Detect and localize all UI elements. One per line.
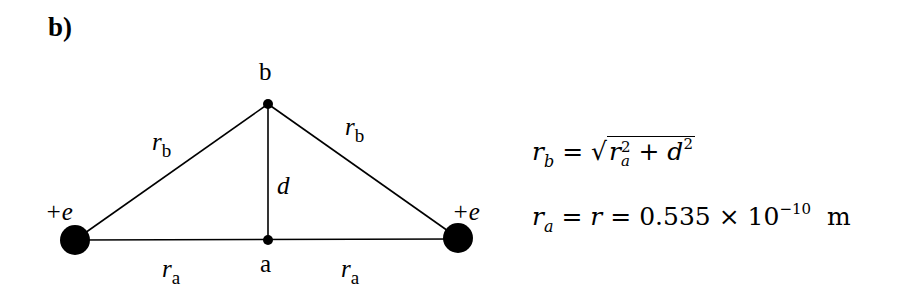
point-a-label: a: [260, 250, 271, 278]
ra-left-label: ra: [162, 255, 180, 283]
equation-rb: rb = √r2a + d2: [532, 137, 695, 168]
charge-left: [60, 225, 90, 255]
point-a: [263, 235, 273, 245]
equation-ra: ra = r = 0.535 × 10−10 m: [532, 202, 851, 231]
d-label: d: [277, 172, 290, 200]
point-b-label: b: [259, 58, 272, 86]
charge-right: [443, 223, 473, 253]
edge-rb-left: [75, 104, 268, 240]
rb-right-label: rb: [345, 113, 364, 141]
point-b: [263, 99, 273, 109]
rb-left-label: rb: [152, 128, 171, 156]
triangle-diagram: [0, 0, 914, 295]
charge-right-label: +e: [452, 198, 480, 226]
ra-right-label: ra: [341, 255, 359, 283]
charge-left-label: +e: [45, 198, 73, 226]
sqrt-radicand: r2a + d2: [607, 136, 695, 166]
